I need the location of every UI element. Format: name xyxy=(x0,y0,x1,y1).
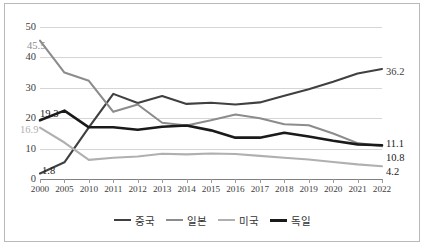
legend-item[interactable]: 중국 xyxy=(114,213,155,228)
x-axis-tickmark xyxy=(333,179,334,183)
plot-area xyxy=(40,27,382,179)
x-axis-tickmark xyxy=(187,179,188,183)
legend-item[interactable]: 독일 xyxy=(270,213,311,228)
x-axis-labels: 2000200520102011201220132014201520162017… xyxy=(40,184,382,198)
data-point-label: 4.2 xyxy=(386,166,399,177)
y-axis-tick-label: 50 xyxy=(2,22,36,32)
x-axis-tickmark xyxy=(260,179,261,183)
chart-legend: 중국일본미국독일 xyxy=(0,210,425,230)
y-axis-tick-label: 0 xyxy=(2,174,36,184)
x-axis-tickmark xyxy=(138,179,139,183)
x-axis-tickmark xyxy=(235,179,236,183)
legend-label: 일본 xyxy=(187,213,207,228)
x-axis-tickmark xyxy=(113,179,114,183)
legend-item[interactable]: 미국 xyxy=(218,213,259,228)
legend-label: 중국 xyxy=(135,213,155,228)
data-point-label: 16.9 xyxy=(20,124,38,135)
legend-swatch-icon xyxy=(166,219,183,221)
y-axis-tick-label: 40 xyxy=(2,52,36,62)
series-line xyxy=(40,111,382,146)
data-point-label: 19.3 xyxy=(40,108,58,119)
legend-swatch-icon xyxy=(218,219,235,221)
series-lines xyxy=(40,27,382,179)
x-axis-tickmark xyxy=(40,179,41,183)
x-axis-tickmark xyxy=(382,179,383,183)
x-axis-tickmark xyxy=(64,179,65,183)
y-axis-tick-label: 20 xyxy=(2,113,36,123)
data-point-label: 1.8 xyxy=(42,165,55,176)
data-point-label: 11.1 xyxy=(386,138,404,149)
data-point-label: 36.2 xyxy=(386,66,404,77)
data-point-label: 10.8 xyxy=(386,152,404,163)
legend-label: 미국 xyxy=(239,213,259,228)
legend-swatch-icon xyxy=(114,219,131,221)
y-axis-tick-label: 10 xyxy=(2,144,36,154)
x-axis-tickmark xyxy=(211,179,212,183)
legend-label: 독일 xyxy=(291,213,311,228)
x-axis-tickmark xyxy=(284,179,285,183)
x-axis-tickmark xyxy=(358,179,359,183)
x-axis-tick-label: 2022 xyxy=(365,184,399,194)
x-axis-tickmark xyxy=(309,179,310,183)
legend-item[interactable]: 일본 xyxy=(166,213,207,228)
y-axis-tick-label: 30 xyxy=(2,83,36,93)
x-axis-tickmark xyxy=(89,179,90,183)
x-axis-tickmark xyxy=(162,179,163,183)
chart-figure: 01020304050 2000200520102011201220132014… xyxy=(0,0,425,246)
legend-swatch-icon xyxy=(270,219,287,222)
data-point-label: 45.5 xyxy=(27,40,45,51)
